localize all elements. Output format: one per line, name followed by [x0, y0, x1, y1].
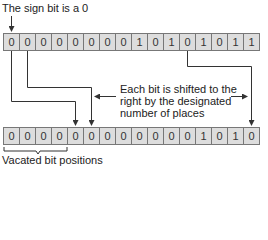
vacated-caption: Vacated bit positions	[2, 154, 103, 166]
note-line: right by the designated	[120, 95, 237, 107]
note-line: Each bit is shifted to the	[120, 83, 237, 95]
note-line: number of places	[120, 107, 237, 119]
shift-explanation: Each bit is shifted to the right by the …	[120, 83, 237, 119]
